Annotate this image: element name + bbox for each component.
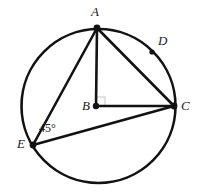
geometry-canvas: [0, 0, 200, 194]
vertex-dot-D: [149, 49, 154, 54]
vertex-dot-B: [93, 103, 99, 109]
segment-AB: [96, 28, 97, 106]
vertex-label-E: E: [17, 137, 25, 150]
geometry-figure: A B C D E 45°: [0, 0, 200, 194]
vertex-label-B: B: [82, 99, 90, 112]
vertex-dot-A: [94, 25, 101, 32]
vertex-label-A: A: [91, 5, 99, 18]
vertex-label-D: D: [158, 34, 167, 47]
vertex-label-C: C: [181, 99, 190, 112]
angle-label-45-degrees: 45°: [39, 122, 56, 134]
vertex-dot-C: [171, 103, 178, 110]
vertex-dot-E: [30, 142, 37, 149]
